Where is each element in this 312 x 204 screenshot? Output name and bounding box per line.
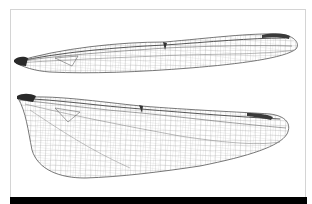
- caption-bar: [10, 197, 307, 204]
- hindwing: [15, 90, 300, 182]
- forewing: [10, 30, 305, 80]
- forewing-base: [14, 57, 28, 66]
- wing-illustration: [0, 0, 312, 204]
